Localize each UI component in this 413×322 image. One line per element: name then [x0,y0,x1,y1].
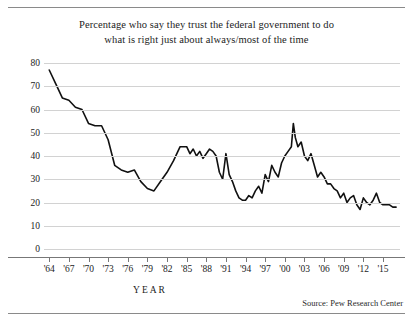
x-tick-label-'03: '03 [299,264,310,274]
chart-title-line1: Percentage who say they trust the federa… [79,19,334,30]
gridline-30 [44,179,400,180]
y-tick-label-40: 40 [31,151,41,161]
y-tick-label-50: 50 [31,128,41,138]
x-tick-'09 [344,257,345,262]
x-tick-label-'73: '73 [103,264,114,274]
x-tick-'91 [226,257,227,262]
chart-title: Percentage who say they trust the federa… [0,17,413,47]
y-tick-label-30: 30 [31,174,41,184]
x-tick-label-'85: '85 [181,264,192,274]
y-tick-label-60: 60 [31,105,41,115]
x-tick-label-'70: '70 [83,264,94,274]
plot-area [44,63,400,249]
x-tick-label-'12: '12 [358,264,369,274]
x-tick-'67 [69,257,70,262]
x-tick-label-'09: '09 [338,264,349,274]
x-tick-label-'82: '82 [161,264,172,274]
x-tick-'79 [147,257,148,262]
x-tick-'12 [363,257,364,262]
x-tick-'70 [89,257,90,262]
x-tick-label-'79: '79 [142,264,153,274]
x-tick-'03 [304,257,305,262]
x-tick-'00 [285,257,286,262]
chart-title-line2: what is right just about always/most of … [0,32,413,47]
x-tick-label-'67: '67 [63,264,74,274]
x-tick-'82 [167,257,168,262]
gridline-20 [44,203,400,204]
y-tick-label-80: 80 [31,58,41,68]
bottom-divider [8,313,405,314]
top-divider [8,7,405,8]
x-tick-label-'76: '76 [122,264,133,274]
y-tick-label-0: 0 [35,244,40,254]
x-tick-'73 [108,257,109,262]
y-tick-label-20: 20 [31,198,41,208]
y-tick-label-70: 70 [31,81,41,91]
y-tick-label-10: 10 [31,221,41,231]
gridline-10 [44,226,400,227]
gridline-80 [44,63,400,64]
x-tick-'06 [324,257,325,262]
gridline-0 [44,249,400,250]
x-tick-'88 [206,257,207,262]
x-tick-'85 [187,257,188,262]
x-tick-'76 [128,257,129,262]
gridline-60 [44,110,400,111]
chart-page: Percentage who say they trust the federa… [0,0,413,322]
x-tick-label-'94: '94 [240,264,251,274]
gridline-70 [44,86,400,87]
x-tick-label-'06: '06 [318,264,329,274]
x-tick-label-'64: '64 [44,264,55,274]
x-tick-label-'91: '91 [220,264,231,274]
gridline-40 [44,156,400,157]
x-tick-'64 [49,257,50,262]
x-tick-label-'00: '00 [279,264,290,274]
source-note: Source: Pew Research Center [302,298,403,308]
x-tick-'97 [265,257,266,262]
x-tick-label-'15: '15 [377,264,388,274]
x-axis-title: YEAR [0,285,300,295]
x-tick-'15 [383,257,384,262]
x-tick-label-'97: '97 [260,264,271,274]
x-tick-'94 [246,257,247,262]
x-tick-label-'88: '88 [201,264,212,274]
gridline-50 [44,133,400,134]
y-axis-labels: 80706050403020100 [0,63,40,249]
